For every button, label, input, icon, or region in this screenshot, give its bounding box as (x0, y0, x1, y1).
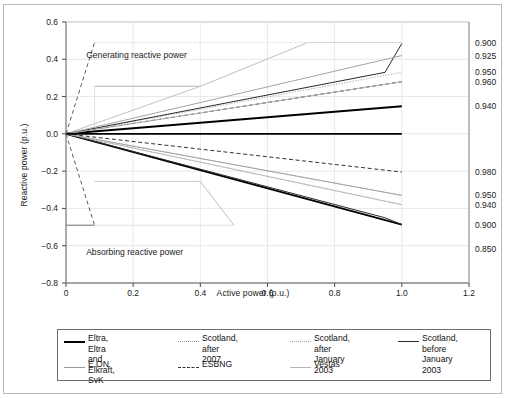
legend-item[interactable]: Scotland, before January 2003 (398, 333, 458, 375)
legend-line-swatch (64, 362, 85, 373)
power-factor-label: 0.900 (475, 38, 496, 48)
legend-item[interactable]: Vestas (290, 359, 340, 373)
y-tick-label: 0.0 (24, 129, 58, 139)
legend-item[interactable]: E.ON (64, 359, 109, 373)
power-factor-label: 0.850 (475, 244, 496, 254)
y-tick-label: −0.2 (24, 166, 58, 176)
chart-figure: Reactive power (p.u.) Active power (p.u.… (0, 0, 506, 398)
y-tick-label: −0.6 (24, 241, 58, 251)
envelope-light-upper-rise (200, 43, 307, 87)
series-line-upper-0 (66, 106, 402, 134)
legend-label: Vestas (311, 359, 340, 370)
legend-line-swatch (64, 336, 85, 347)
x-tick-label: 0.8 (320, 288, 350, 298)
y-tick-label: 0.4 (24, 54, 58, 64)
legend-item[interactable]: ESBNG (178, 359, 232, 373)
esbng-envelope-lower (66, 134, 95, 225)
legend-line-swatch (290, 362, 311, 373)
legend-line-swatch (398, 336, 419, 347)
y-tick-label: −0.4 (24, 203, 58, 213)
y-tick-label: 0.6 (24, 17, 58, 27)
envelope-light-lower-fall (200, 181, 234, 225)
x-tick-label: 0.2 (118, 288, 148, 298)
x-tick-label: 0.4 (185, 288, 215, 298)
legend-line-swatch (178, 362, 199, 373)
chart-legend: Eltra, Eltra and Elkraft, SvKScotland, a… (57, 329, 491, 381)
legend-line-swatch (290, 336, 311, 347)
y-tick-label: −0.8 (24, 278, 58, 288)
x-tick-label: 0.6 (253, 288, 283, 298)
series-line-lower-6 (66, 134, 402, 205)
legend-label: E.ON (85, 359, 109, 370)
x-tick-label: 0 (51, 288, 81, 298)
power-factor-label: 0.900 (475, 220, 496, 230)
power-factor-label: 0.925 (475, 51, 496, 61)
x-tick-label: 1.2 (454, 288, 484, 298)
y-tick-label: 0.2 (24, 92, 58, 102)
legend-line-swatch (178, 336, 199, 347)
annotation-absorbing: Absorbing reactive power (86, 247, 183, 257)
power-factor-label: 0.940 (475, 200, 496, 210)
series-line-upper-6 (66, 82, 402, 134)
legend-label: Scotland, before January 2003 (419, 333, 458, 375)
series-line-upper-4 (66, 56, 402, 134)
x-tick-label: 1.0 (387, 288, 417, 298)
series-line-lower-4 (66, 134, 402, 196)
series-line-lower-5 (66, 134, 402, 172)
annotation-generating: Generating reactive power (86, 50, 187, 60)
power-factor-label: 0.940 (475, 101, 496, 111)
power-factor-label: 0.960 (475, 77, 496, 87)
legend-label: ESBNG (199, 359, 232, 370)
power-factor-label: 0.980 (475, 167, 496, 177)
